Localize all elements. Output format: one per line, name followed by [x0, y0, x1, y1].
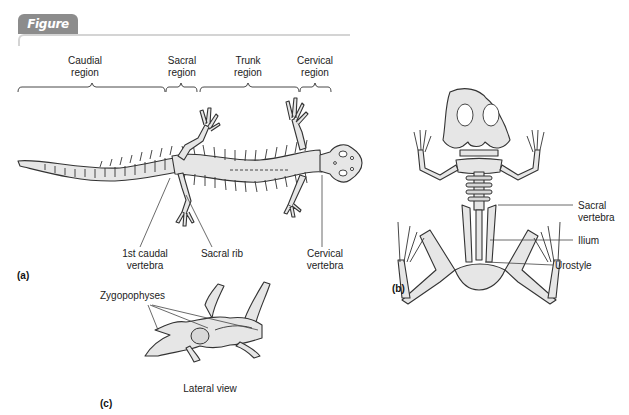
- leader-zygo-1: [148, 305, 158, 330]
- callout-line: vertebra: [295, 260, 355, 272]
- caption-lateral-view: Lateral view: [170, 383, 250, 395]
- leader-1st-caudal: [140, 178, 170, 247]
- frog-skeleton: [398, 89, 560, 304]
- callout-ilium: Ilium: [578, 235, 628, 247]
- figure-artwork: .bone { fill: #e6e6e6; stroke: #333; str…: [0, 0, 629, 415]
- callout-line: vertebra: [578, 212, 628, 224]
- panel-label-b: (b): [392, 283, 405, 294]
- callout-line: 1st caudal: [110, 248, 180, 260]
- callout-line: Cervical: [295, 248, 355, 260]
- region-braces: [18, 83, 331, 92]
- callout-sacral-vertebra: Sacral vertebra: [578, 200, 628, 224]
- callout-line: Urostyle: [555, 260, 615, 272]
- callout-1st-caudal-vertebra: 1st caudal vertebra: [110, 248, 180, 272]
- callout-line: Sacral rib: [192, 248, 252, 260]
- callout-sacral-rib: Sacral rib: [192, 248, 252, 260]
- panel-label-c: (c): [100, 398, 112, 409]
- callout-cervical-vertebra: Cervical vertebra: [295, 248, 355, 272]
- panel-label-a: (a): [17, 270, 29, 281]
- leader-sacral-rib: [186, 195, 212, 247]
- callout-zygopophyses: Zygopophyses: [100, 290, 190, 302]
- callout-line: Ilium: [578, 235, 628, 247]
- salamander-skeleton: [18, 98, 362, 226]
- callout-line: vertebra: [110, 260, 180, 272]
- callout-line: Sacral: [578, 200, 628, 212]
- callout-urostyle: Urostyle: [555, 260, 615, 272]
